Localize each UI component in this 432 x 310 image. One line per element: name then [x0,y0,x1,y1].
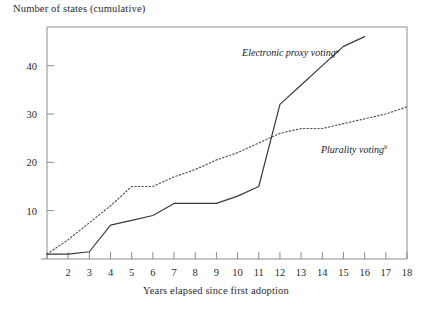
series-line-plurality-voting [47,107,407,254]
plot-area: 10203040 23456789101112131415161718 Elec… [0,0,432,310]
x-tick-label: 3 [87,267,92,278]
x-tick-label: 13 [296,267,307,278]
series-annotations-group: Electronic proxy votingaPlurality voting… [241,47,388,155]
series-label-electronic-proxy-voting: Electronic proxy votinga [241,47,339,59]
y-tick-label: 20 [27,157,38,168]
series-label-plurality-voting: Plurality votingb [320,143,388,155]
series-line-electronic-proxy-voting [47,37,365,255]
x-tick-label: 7 [171,267,176,278]
footnote-marker: a [336,47,339,54]
x-tick-label: 9 [214,267,219,278]
x-tick-label: 15 [338,267,349,278]
x-tick-label: 16 [359,267,370,278]
x-tick-label: 10 [232,267,243,278]
y-axis-ticks: 10203040 [27,61,55,217]
x-tick-label: 6 [150,267,155,278]
chart-container: Number of states (cumulative) 10203040 2… [0,0,432,310]
x-tick-label: 18 [402,267,413,278]
x-tick-label: 2 [66,267,71,278]
x-tick-label: 4 [108,267,114,278]
x-tick-label: 8 [193,267,198,278]
x-tick-label: 14 [317,267,328,278]
y-tick-label: 10 [27,206,38,217]
x-tick-label: 12 [275,267,286,278]
x-axis-title: Years elapsed since first adoption [0,285,432,296]
x-axis-ticks: 23456789101112131415161718 [47,252,412,278]
x-tick-label: 11 [254,267,264,278]
y-tick-label: 30 [27,109,38,120]
x-tick-label: 17 [381,267,392,278]
x-tick-label: 5 [129,267,134,278]
footnote-marker: b [384,143,388,150]
y-tick-label: 40 [27,61,38,72]
